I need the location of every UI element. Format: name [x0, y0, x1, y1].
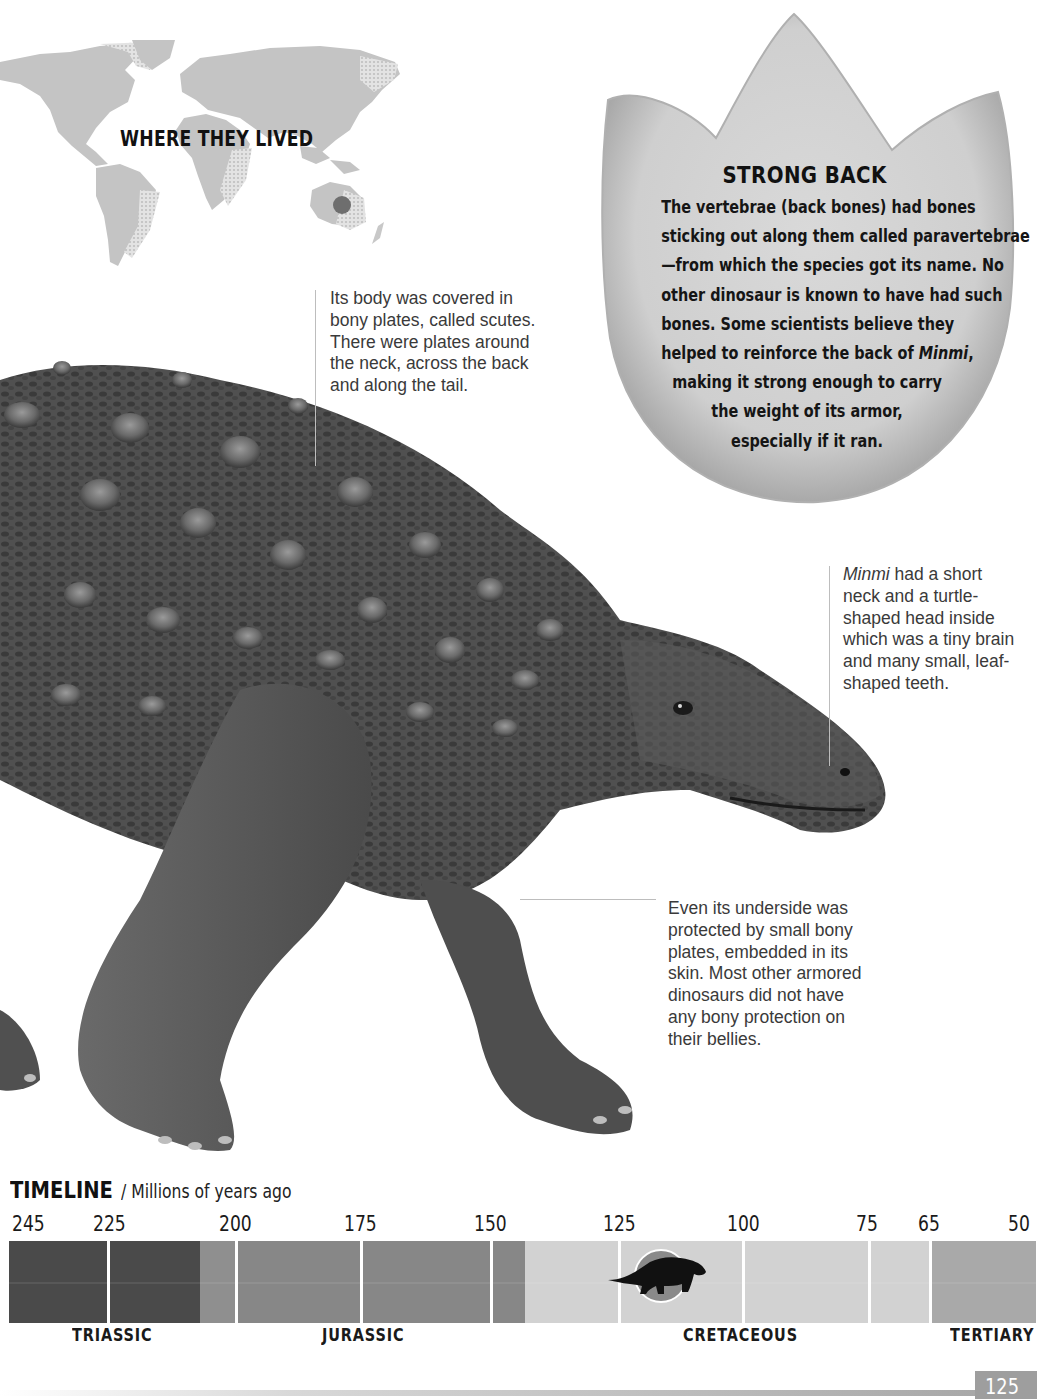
annotation-line: dinosaurs did not have — [668, 985, 898, 1007]
timeline-bar — [9, 1241, 1036, 1323]
strong-back-line: other dinosaur is known to have had such — [661, 280, 953, 309]
strong-back-line: bones. Some scientists believe they — [661, 309, 953, 338]
annotation-belly: Even its underside was protected by smal… — [668, 898, 898, 1051]
timeline-title: TIMELINE — [10, 1177, 113, 1203]
annotation-line: shaped head inside — [843, 608, 1043, 630]
annotation-scutes: Its body was covered in bony plates, cal… — [330, 288, 560, 397]
timeline-period-cretaceous: CRETACEOUS — [683, 1325, 798, 1345]
timeline-subtitle: / Millions of years ago — [121, 1179, 291, 1203]
timeline-segment — [235, 1241, 525, 1323]
leader-line-head — [829, 566, 830, 766]
annotation-line: and many small, leaf- — [843, 651, 1043, 673]
annotation-line: their bellies. — [668, 1029, 898, 1051]
punctuation: , — [968, 342, 973, 363]
timeline-tick-label: 100 — [727, 1211, 760, 1236]
world-map-graphic — [0, 40, 420, 280]
timeline-period-tertiary: TERTIARY — [950, 1325, 1034, 1345]
annotation-line: shaped teeth. — [843, 673, 1043, 695]
timeline-heading: TIMELINE / Millions of years ago — [10, 1177, 340, 1203]
map-title: WHERE THEY LIVED — [120, 127, 313, 151]
annotation-line: Its body was covered in — [330, 288, 560, 310]
timeline-tick-label: 65 — [918, 1211, 940, 1236]
timeline-tick-label: 50 — [1008, 1211, 1030, 1236]
timeline-divider — [107, 1241, 110, 1323]
leader-line-belly — [520, 899, 656, 900]
footer-rule — [0, 1390, 975, 1396]
timeline-tick-label: 245 — [12, 1211, 45, 1236]
strong-back-heading: STRONG BACK — [600, 162, 1010, 188]
world-map — [0, 40, 420, 280]
timeline-tick-label: 150 — [474, 1211, 507, 1236]
strong-back-line: —from which the species got its name. No — [661, 250, 953, 279]
timeline-tick-label: 75 — [856, 1211, 878, 1236]
annotation-line: protected by small bony — [668, 920, 898, 942]
timeline-divider — [360, 1241, 363, 1323]
timeline-divider — [490, 1241, 493, 1323]
annotation-line: skin. Most other armored — [668, 963, 898, 985]
strong-back-line: sticking out along them called paraverte… — [661, 221, 953, 250]
species-name: Minmi — [919, 342, 969, 363]
strong-back-heading-text: STRONG BACK — [723, 162, 887, 188]
annotation-line: any bony protection on — [668, 1007, 898, 1029]
timeline-segment — [931, 1241, 1036, 1323]
minmi-timeline-marker — [606, 1246, 716, 1306]
annotation-line: which was a tiny brain — [843, 629, 1043, 651]
annotation-line: and along the tail. — [330, 375, 560, 397]
annotation-line: There were plates around — [330, 332, 560, 354]
timeline-segment — [200, 1241, 235, 1323]
leader-line-scutes — [315, 290, 316, 466]
timeline-tick-label: 225 — [93, 1211, 126, 1236]
timeline-period-jurassic: JURASSIC — [322, 1325, 404, 1345]
strong-back-line: The vertebrae (back bones) had bones — [661, 192, 953, 221]
annotation-line: the neck, across the back — [330, 353, 560, 375]
annotation-line: neck and a turtle- — [843, 586, 1043, 608]
annotation-line: plates, embedded in its — [668, 942, 898, 964]
timeline-divider — [742, 1241, 745, 1323]
annotation-line: Even its underside was — [668, 898, 898, 920]
annotation-line: Minmi had a short — [843, 564, 1043, 586]
fossil-site-marker — [333, 196, 351, 214]
timeline-period-triassic: TRIASSIC — [72, 1325, 152, 1345]
annotation-line: bony plates, called scutes. — [330, 310, 560, 332]
annotation-line-text: had a short — [890, 564, 982, 584]
timeline-tick-label: 200 — [219, 1211, 252, 1236]
timeline-divider — [929, 1241, 932, 1323]
minmi-silhouette-icon — [606, 1246, 716, 1306]
annotation-head: Minmi had a short neck and a turtle- sha… — [843, 564, 1043, 695]
timeline-tick-label: 175 — [344, 1211, 377, 1236]
timeline-tick-label: 125 — [603, 1211, 636, 1236]
page-number: 125 — [985, 1375, 1028, 1399]
timeline-segment — [9, 1241, 200, 1323]
species-name: Minmi — [843, 564, 890, 584]
timeline-divider — [868, 1241, 871, 1323]
timeline-divider — [235, 1241, 238, 1323]
